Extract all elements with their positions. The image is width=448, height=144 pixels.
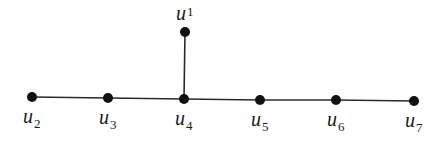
label-u3: u3 (99, 106, 117, 132)
graph-diagram: u1u2u3u4u5u6u7 (0, 0, 448, 144)
node-u5 (255, 95, 265, 105)
node-u7 (409, 96, 419, 106)
node-u3 (103, 93, 113, 103)
label-u5: u5 (251, 108, 269, 134)
edges (32, 32, 414, 101)
labels: u1u2u3u4u5u6u7 (23, 2, 423, 135)
label-u7: u7 (405, 109, 423, 135)
label-u6: u6 (327, 108, 345, 134)
edge-u1-u4 (184, 32, 185, 99)
node-u6 (331, 95, 341, 105)
node-u2 (27, 92, 37, 102)
node-u1 (180, 27, 190, 37)
node-u4 (179, 94, 189, 104)
edge-u2-u3 (32, 97, 108, 98)
edge-u6-u7 (336, 100, 414, 101)
nodes (27, 27, 419, 106)
label-u4: u4 (175, 107, 193, 133)
edge-u3-u4 (108, 98, 184, 99)
label-u1: u1 (176, 2, 194, 24)
edge-u4-u5 (184, 99, 260, 100)
label-u2: u2 (23, 105, 41, 131)
